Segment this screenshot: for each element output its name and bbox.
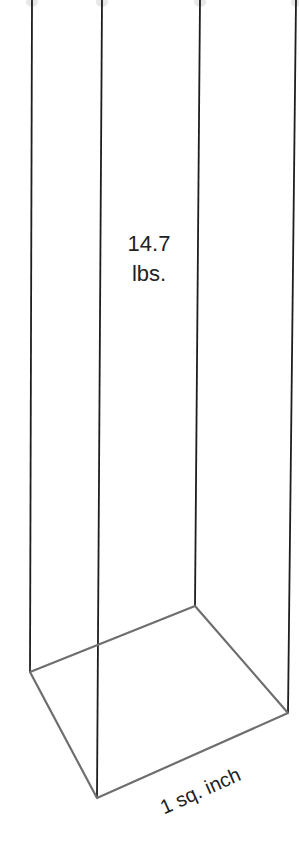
base-outline bbox=[30, 606, 288, 798]
base-area-label: 1 sq. inch bbox=[157, 763, 244, 818]
weight-label-value: 14.7 bbox=[128, 231, 171, 256]
air-column-diagram: 14.7 lbs. 1 sq. inch bbox=[0, 0, 299, 842]
column-vertical-edges bbox=[30, 0, 296, 798]
base-square bbox=[30, 606, 288, 798]
left-back-edge bbox=[30, 0, 32, 672]
right-front-edge bbox=[288, 0, 296, 713]
top-fade bbox=[26, 0, 299, 7]
weight-label-unit: lbs. bbox=[132, 261, 166, 286]
right-back-edge bbox=[195, 0, 200, 606]
front-edge bbox=[97, 0, 102, 798]
